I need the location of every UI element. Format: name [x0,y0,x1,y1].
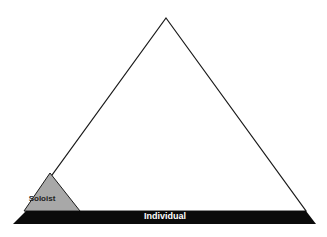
soloist-label: Soloist [22,194,62,203]
pyramid-outline [26,18,306,211]
individual-label: Individual [100,211,230,221]
